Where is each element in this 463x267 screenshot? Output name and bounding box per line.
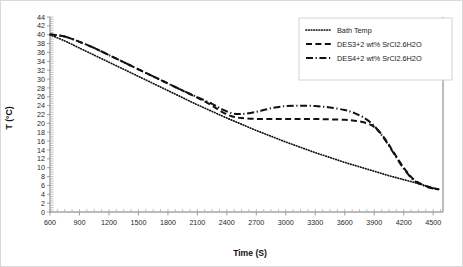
legend-label-1: Bath Temp xyxy=(337,26,372,35)
y-tick-label: 4 xyxy=(41,190,45,199)
x-tick-labels: 6009001200150018002100240027003000330036… xyxy=(44,218,441,227)
x-tick-label: 1800 xyxy=(160,218,176,227)
y-tick-label: 28 xyxy=(37,84,45,93)
y-tick-label: 16 xyxy=(37,137,45,146)
y-tick-label: 12 xyxy=(37,154,45,163)
y-tick-label: 24 xyxy=(37,101,45,110)
x-tick-label: 2100 xyxy=(189,218,205,227)
y-tick-label: 34 xyxy=(37,57,45,66)
chart-legend: Bath TempDES3+2 wt% SrCl2.6H2ODES4+2 wt%… xyxy=(299,18,452,80)
chart-container: 0246810121416182022242628303234363840424… xyxy=(0,0,463,267)
y-tick-label: 2 xyxy=(41,199,45,208)
y-tick-label: 0 xyxy=(41,208,45,217)
y-tick-label: 30 xyxy=(37,75,45,84)
x-tick-label: 1500 xyxy=(130,218,146,227)
x-tick-label: 3600 xyxy=(337,218,353,227)
x-tick-label: 600 xyxy=(44,218,56,227)
y-tick-label: 44 xyxy=(37,13,45,22)
x-tick-label: 3000 xyxy=(278,218,294,227)
y-tick-label: 26 xyxy=(37,92,45,101)
y-tick-label: 22 xyxy=(37,110,45,119)
y-tick-label: 42 xyxy=(37,21,45,30)
y-tick-label: 8 xyxy=(41,172,45,181)
y-tick-label: 6 xyxy=(41,181,45,190)
y-tick-label: 20 xyxy=(37,119,45,128)
y-tick-label: 18 xyxy=(37,128,45,137)
y-tick-label: 10 xyxy=(37,163,45,172)
legend-box xyxy=(299,18,452,80)
y-tick-label: 36 xyxy=(37,48,45,57)
temperature-vs-time-line-chart: 0246810121416182022242628303234363840424… xyxy=(0,0,463,267)
x-tick-label: 4500 xyxy=(425,218,441,227)
y-axis-title: T (°C) xyxy=(4,106,14,129)
legend-label-2: DES3+2 wt% SrCl2.6H2O xyxy=(337,40,422,49)
x-tick-label: 4200 xyxy=(396,218,412,227)
legend-label-3: DES4+2 wt% SrCl2.6H2O xyxy=(337,54,422,63)
x-tick-label: 3300 xyxy=(307,218,323,227)
x-tick-label: 2700 xyxy=(248,218,264,227)
x-tick-label: 2400 xyxy=(219,218,235,227)
y-tick-label: 40 xyxy=(37,30,45,39)
y-tick-label: 14 xyxy=(37,146,45,155)
y-tick-labels: 0246810121416182022242628303234363840424… xyxy=(37,13,45,217)
x-axis-title: Time (S) xyxy=(233,248,267,258)
x-tick-label: 3900 xyxy=(366,218,382,227)
y-tick-label: 32 xyxy=(37,66,45,75)
y-tick-label: 38 xyxy=(37,39,45,48)
x-tick-label: 900 xyxy=(73,218,85,227)
x-tick-label: 1200 xyxy=(101,218,117,227)
